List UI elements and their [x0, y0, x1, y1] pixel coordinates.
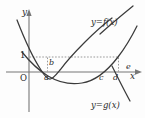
- math-graph-figure: y x O 1 a b c d e y=f(x) y=g(x): [0, 0, 145, 118]
- x-axis-arrow-icon: [135, 69, 142, 74]
- x-axis-label: x: [130, 72, 135, 81]
- curve-label-f: y=f(x): [91, 18, 118, 27]
- y-tick-label-1: 1: [20, 51, 25, 60]
- y-axis-arrow-icon: [26, 9, 31, 16]
- origin-label: O: [20, 74, 27, 83]
- point-label-e: e: [126, 63, 131, 71]
- curve-label-g: y=g(x): [91, 101, 120, 110]
- point-label-c: c: [99, 74, 103, 82]
- y-axis-label: y: [22, 8, 27, 17]
- point-label-a: a: [44, 74, 49, 82]
- curve-f: [17, 18, 112, 79]
- curve-g-tail: [112, 66, 130, 101]
- point-label-b: b: [49, 59, 54, 67]
- point-label-d: d: [113, 74, 118, 82]
- curve-g: [22, 26, 137, 84]
